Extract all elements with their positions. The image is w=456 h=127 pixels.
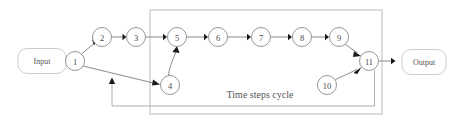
edge-5-to-6 [187, 34, 209, 41]
node-11: 11 [360, 52, 379, 71]
time-steps-cycle-caption: Time steps cycle [227, 89, 294, 100]
flow-diagram: Input Output 1 2 3 4 [0, 0, 456, 127]
node-2-label: 2 [100, 33, 104, 43]
node-1-label: 1 [73, 57, 77, 67]
terminal-input-label: Input [34, 57, 52, 66]
node-7: 7 [252, 28, 271, 47]
terminal-output: Output [402, 50, 446, 75]
edge-2-to-3 [112, 34, 127, 41]
node-4: 4 [161, 76, 180, 95]
edge-4-to-5 [169, 46, 180, 75]
edge-1-to-4 [83, 66, 160, 86]
node-5: 5 [168, 28, 187, 47]
node-layer: 1 2 3 4 5 6 7 [66, 28, 379, 95]
node-6: 6 [209, 28, 228, 47]
node-10-label: 10 [323, 81, 332, 91]
diagram-canvas: Input Output 1 2 3 4 [0, 0, 456, 127]
node-11-label: 11 [365, 57, 373, 67]
terminal-input: Input [18, 49, 66, 74]
node-9-label: 9 [337, 33, 341, 43]
node-1: 1 [66, 52, 85, 71]
node-3-label: 3 [134, 33, 138, 43]
edge-3-to-5 [146, 34, 168, 41]
node-8: 8 [293, 28, 312, 47]
node-8-label: 8 [300, 33, 304, 43]
node-6-label: 6 [216, 33, 220, 43]
edge-6-to-7 [228, 34, 252, 41]
edge-10-to-11 [336, 67, 362, 80]
node-5-label: 5 [175, 33, 179, 43]
edge-11-to-output [379, 58, 396, 65]
node-7-label: 7 [259, 33, 263, 43]
node-2: 2 [93, 28, 112, 47]
node-3: 3 [127, 28, 146, 47]
edge-9-to-11 [346, 45, 362, 58]
node-10: 10 [318, 76, 337, 95]
terminal-output-label: Output [413, 58, 436, 67]
node-9: 9 [330, 28, 349, 47]
edge-8-to-9 [312, 34, 330, 41]
edge-7-to-8 [271, 34, 293, 41]
